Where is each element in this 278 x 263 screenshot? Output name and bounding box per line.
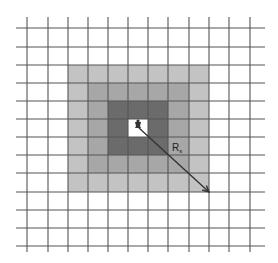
neighborhood-grid-diagram: Rs — [0, 0, 278, 263]
